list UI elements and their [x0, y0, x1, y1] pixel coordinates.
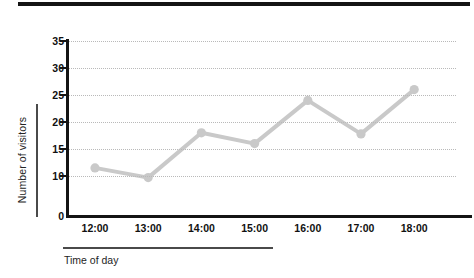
series-line	[95, 90, 414, 178]
x-axis-tick-label: 18:00	[401, 222, 428, 234]
y-axis-tick-mark	[60, 94, 68, 96]
data-point-marker	[250, 139, 259, 148]
x-axis-tick-label: 15:00	[241, 222, 268, 234]
gridline	[69, 68, 456, 69]
data-point-marker	[303, 96, 312, 105]
y-axis-tick-mark	[60, 175, 68, 177]
x-axis-caption-rule	[63, 247, 273, 249]
x-axis-tick-labels: 12:0013:0014:0015:0016:0017:0018:00	[0, 222, 474, 238]
gridline	[69, 122, 456, 123]
x-axis-tick-label: 14:00	[188, 222, 215, 234]
x-axis-tick-label: 12:00	[82, 222, 109, 234]
y-axis-tick-mark	[60, 148, 68, 150]
x-axis-tick-label: 13:00	[135, 222, 162, 234]
y-axis-tick-mark	[60, 40, 68, 42]
y-axis-tick-mark	[60, 67, 68, 69]
data-point-marker	[197, 128, 206, 137]
gridline	[69, 149, 456, 150]
series-markers	[90, 85, 418, 182]
data-point-marker	[356, 129, 365, 138]
data-point-marker	[410, 85, 419, 94]
x-axis-tick-label: 17:00	[348, 222, 375, 234]
data-point-marker	[90, 163, 99, 172]
y-axis-tick-mark	[60, 121, 68, 123]
gridline	[69, 41, 456, 42]
data-point-marker	[144, 173, 153, 182]
line-chart-figure: Number of visitors 3530252015100 12:0013…	[0, 0, 474, 278]
gridline	[69, 95, 456, 96]
x-axis-tick-label: 16:00	[294, 222, 321, 234]
x-axis-caption-label: Time of day	[64, 254, 118, 266]
gridline	[69, 176, 456, 177]
